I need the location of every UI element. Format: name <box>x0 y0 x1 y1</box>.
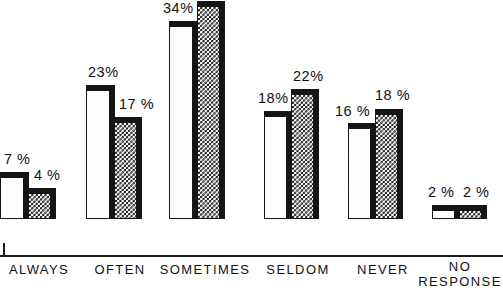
category-label-sometimes: SOMETIMES <box>157 262 253 277</box>
value-label-seldom-series-1: 18% <box>258 90 289 106</box>
value-label-never-series-2: 18 % <box>375 87 410 103</box>
bar-no-response-series-1[interactable] <box>432 205 460 219</box>
bar-seldom-series-2[interactable] <box>291 89 319 219</box>
bar-group-often: 23% 17 % <box>86 0 152 219</box>
bar-seldom-series-1[interactable] <box>264 111 292 219</box>
bar-sometimes-series-1[interactable] <box>169 21 198 219</box>
plot-area: 7 % 4 % 23% 17 % 34% 37 % <box>0 0 503 258</box>
category-label-often: OFTEN <box>78 262 162 277</box>
category-label-seldom: SELDOM <box>253 262 343 277</box>
value-label-always-series-1: 7 % <box>4 151 31 167</box>
bar-no-response-series-2[interactable] <box>459 205 487 219</box>
baseline-axis <box>0 255 503 257</box>
bar-never-series-2[interactable] <box>375 109 403 219</box>
value-label-often-series-1: 23% <box>88 64 119 80</box>
value-label-never-series-1: 16 % <box>335 103 370 119</box>
bar-never-series-1[interactable] <box>348 123 376 219</box>
bar-group-sometimes: 34% 37 % <box>169 0 235 219</box>
value-label-seldom-series-2: 22% <box>293 68 324 84</box>
bar-always-series-2[interactable] <box>28 188 56 219</box>
bar-chart: 7 % 4 % 23% 17 % 34% 37 % <box>0 0 503 295</box>
bar-group-always: 7 % 4 % <box>0 0 66 219</box>
bar-often-series-2[interactable] <box>114 117 142 219</box>
bar-sometimes-series-2[interactable] <box>197 1 225 219</box>
value-label-sometimes-series-1: 34% <box>163 0 194 16</box>
bar-group-seldom: 18% 22% <box>264 0 330 219</box>
value-label-no-response-series-2: 2 % <box>463 184 490 200</box>
bar-always-series-1[interactable] <box>0 172 29 219</box>
category-label-never: NEVER <box>341 262 425 277</box>
value-label-no-response-series-1: 2 % <box>428 184 455 200</box>
category-label-always: ALWAYS <box>0 262 84 277</box>
bar-often-series-1[interactable] <box>86 85 115 219</box>
value-label-often-series-2: 17 % <box>119 96 154 112</box>
category-label-no-response: NO RESPONSE <box>417 259 503 289</box>
bar-group-no-response: 2 % 2 % <box>432 0 498 219</box>
value-label-always-series-2: 4 % <box>34 167 61 183</box>
bar-group-never: 16 % 18 % <box>348 0 414 219</box>
